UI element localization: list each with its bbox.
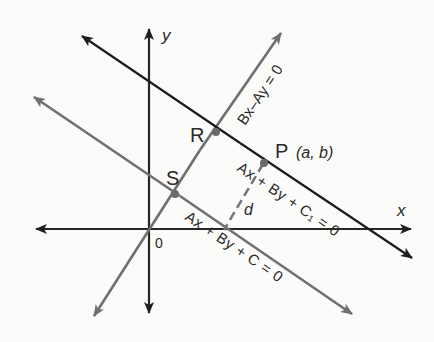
distance-diagram: y x 0 R S P (a, b) d Bx–Ay = 0 Ax + By +…	[0, 0, 434, 342]
equation-line-c1: Ax + By + C₁ = 0	[234, 158, 343, 239]
y-axis-label: y	[161, 26, 172, 45]
point-p-label-group: P (a, b)	[275, 140, 333, 162]
origin-label: 0	[155, 235, 163, 251]
point-s	[171, 190, 179, 198]
equation-bx-ay: Bx–Ay = 0	[233, 61, 285, 127]
line-c	[34, 97, 180, 196]
point-p	[260, 159, 268, 167]
point-p-coords: (a, b)	[296, 144, 333, 161]
point-r-label: R	[190, 124, 204, 146]
x-axis-label: x	[396, 201, 406, 220]
distance-label: d	[244, 201, 254, 218]
equation-line-c: Ax + By + C = 0	[182, 207, 286, 285]
point-r	[212, 128, 220, 136]
point-p-label: P	[275, 140, 288, 162]
point-s-label: S	[166, 167, 179, 189]
line-c1	[82, 36, 240, 143]
